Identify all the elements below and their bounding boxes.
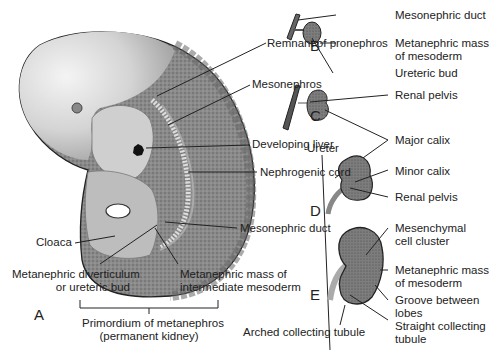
label-e-mass-line2: of mesoderm (395, 277, 489, 290)
label-nephrogenic-cord: Nephrogenic cord (260, 166, 351, 179)
label-b-ureteric-bud: Ureteric bud (395, 67, 458, 80)
label-straight-collecting-tubule: Straight collecting tubule (395, 320, 486, 346)
label-c-renal-pelvis: Renal pelvis (395, 89, 458, 102)
label-straight-line1: Straight collecting (395, 320, 486, 333)
label-diverticulum-line1: Metanephric diverticulum (12, 268, 130, 281)
panel-label-a: A (34, 306, 44, 323)
label-mesenchymal-cell-cluster: Mesenchymal cell cluster (395, 222, 466, 248)
panel-label-c: C (310, 107, 321, 124)
label-straight-line2: tubule (395, 333, 486, 346)
label-minor-calix: Minor calix (395, 165, 450, 178)
label-metanephric-mass-intermediate: Metanephric mass of intermediate mesoder… (180, 268, 301, 294)
label-remnant-pronephros: Remnant of pronephros (267, 37, 388, 50)
label-d-renal-pelvis: Renal pelvis (395, 191, 458, 204)
label-b-mass-line2: of mesoderm (395, 50, 489, 63)
panel-c-illustration (283, 85, 388, 350)
label-groove-line1: Groove between (395, 294, 479, 307)
label-b-mass-line1: Metanephric mass (395, 37, 489, 50)
label-major-calix: Major calix (395, 134, 450, 147)
label-b-mesonephric-duct: Mesonephric duct (395, 9, 486, 22)
label-cloaca: Cloaca (36, 236, 72, 249)
cloaca-opening (106, 204, 130, 218)
label-b-metanephric-mass: Metanephric mass of mesoderm (395, 37, 489, 63)
label-mesenchymal-line2: cell cluster (395, 235, 466, 248)
panel-d-illustration (328, 156, 388, 214)
label-primordium-metanephros: Primordium of metanephros (permanent kid… (82, 317, 216, 343)
label-e-metanephric-mass: Metanephric mass of mesoderm (395, 264, 489, 290)
heart-region (92, 105, 153, 178)
panel-label-e: E (310, 286, 320, 303)
eye (72, 103, 82, 113)
label-mass-line1: Metanephric mass of (180, 268, 301, 281)
label-mesenchymal-line1: Mesenchymal (395, 222, 466, 235)
label-groove-between-lobes: Groove between lobes (395, 294, 479, 320)
label-mesonephric-duct: Mesonephric duct (240, 222, 331, 235)
label-primordium-line2: (permanent kidney) (82, 330, 216, 343)
label-metanephric-diverticulum: Metanephric diverticulum or ureteric bud (12, 268, 130, 294)
label-mass-line2: intermediate mesoderm (180, 281, 301, 294)
label-groove-line2: lobes (395, 307, 479, 320)
panel-e-illustration (330, 228, 388, 325)
label-arched-collecting-tubule: Arched collecting tubule (243, 326, 365, 339)
label-diverticulum-line2: or ureteric bud (12, 281, 130, 294)
panel-label-d: D (310, 202, 321, 219)
label-ureter: Ureter (307, 142, 339, 155)
label-primordium-line1: Primordium of metanephros (82, 317, 216, 330)
label-mesonephros: Mesonephros (252, 78, 322, 91)
label-e-mass-line1: Metanephric mass (395, 264, 489, 277)
embryo-illustration (19, 32, 254, 297)
